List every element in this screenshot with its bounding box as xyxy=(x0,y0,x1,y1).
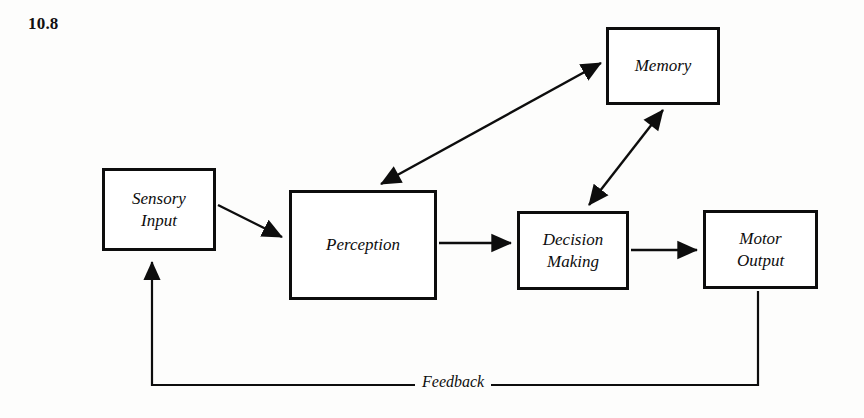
edge-perception-to-memory xyxy=(381,63,601,184)
node-perception[interactable]: Perception xyxy=(289,190,437,300)
node-decision-making[interactable]: Decision Making xyxy=(517,211,629,290)
node-motor-output[interactable]: Motor Output xyxy=(703,210,818,289)
node-memory[interactable]: Memory xyxy=(606,27,720,105)
edge-feedback-loop xyxy=(152,262,758,385)
node-motor-output-label: Motor Output xyxy=(733,228,788,272)
node-perception-label: Perception xyxy=(322,234,404,256)
figure-container: 10.8 Sensory Input Perception Memory xyxy=(0,0,864,418)
node-sensory-input-label: Sensory Input xyxy=(128,188,190,232)
node-memory-label: Memory xyxy=(631,55,696,77)
node-decision-making-label: Decision Making xyxy=(539,229,607,273)
edge-label-feedback: Feedback xyxy=(415,373,491,391)
edge-memory-to-decision xyxy=(589,110,663,205)
edge-sensory-to-perception xyxy=(218,205,282,237)
node-sensory-input[interactable]: Sensory Input xyxy=(102,168,216,251)
